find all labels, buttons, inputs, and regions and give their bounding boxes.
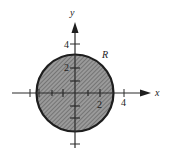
disk-region-diagram: y x R 4 2 2 4 (0, 0, 169, 158)
x-tick-label-2: 2 (97, 99, 102, 110)
y-axis-arrow-icon (72, 22, 79, 33)
y-tick-label-4: 4 (64, 39, 69, 50)
x-axis-arrow-icon (140, 90, 151, 97)
x-axis-label: x (154, 87, 160, 98)
y-tick-label-2: 2 (64, 62, 69, 73)
region-label: R (101, 49, 108, 60)
y-axis-label: y (69, 7, 75, 18)
x-tick-label-4: 4 (121, 97, 126, 108)
